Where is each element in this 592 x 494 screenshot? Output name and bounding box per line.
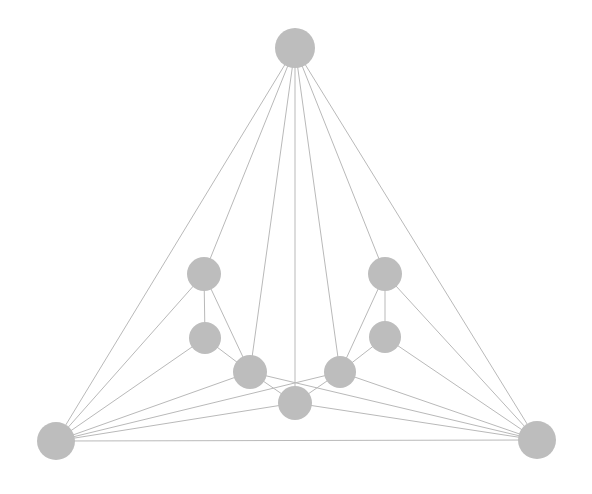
graph-node-center-lower[interactable] xyxy=(278,386,312,420)
graph-edge xyxy=(56,403,295,441)
graph-edge xyxy=(295,48,340,372)
graph-node-right-upper[interactable] xyxy=(368,257,402,291)
graph-node-base-right[interactable] xyxy=(518,421,556,459)
graph-edge xyxy=(56,440,537,441)
graph-edge xyxy=(385,337,537,440)
graph-edge xyxy=(340,372,537,440)
graph-node-left-middle[interactable] xyxy=(189,322,221,354)
graph-node-right-middle[interactable] xyxy=(369,321,401,353)
graph-node-apex-top[interactable] xyxy=(275,28,315,68)
graph-edge xyxy=(295,403,537,440)
graph-edge xyxy=(250,48,295,372)
graph-canvas xyxy=(0,0,592,494)
graph-node-right-lower[interactable] xyxy=(324,356,356,388)
graph-edge xyxy=(385,274,537,440)
graph-edge xyxy=(56,274,204,441)
graph-edge xyxy=(56,338,205,441)
edge-layer xyxy=(56,48,537,441)
graph-diagram xyxy=(0,0,592,494)
graph-edge xyxy=(56,372,250,441)
graph-node-base-left[interactable] xyxy=(37,422,75,460)
graph-node-left-lower[interactable] xyxy=(233,355,267,389)
graph-edge xyxy=(204,48,295,274)
graph-edge xyxy=(295,48,385,274)
node-layer xyxy=(37,28,556,460)
graph-node-left-upper[interactable] xyxy=(187,257,221,291)
